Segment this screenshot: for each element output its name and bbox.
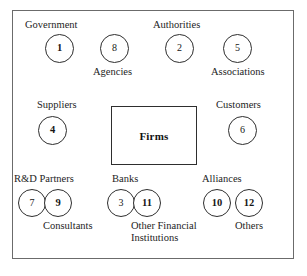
node-agencies[interactable]: 8 <box>100 34 129 63</box>
node-other-financial-institutions[interactable]: 11 <box>133 189 161 217</box>
label-others: Others <box>235 220 263 232</box>
node-number-other-financial-institutions: 11 <box>142 198 152 209</box>
node-number-government: 1 <box>57 43 62 54</box>
node-number-rd-partners: 7 <box>30 198 35 208</box>
node-rd-partners[interactable]: 7 <box>18 189 46 217</box>
label-agencies: Agencies <box>93 66 132 78</box>
label-other-financial-institutions: Other Financial Institutions <box>131 220 209 244</box>
label-authorities: Authorities <box>153 19 200 31</box>
node-number-alliances: 10 <box>212 198 223 209</box>
label-government: Government <box>25 19 78 31</box>
label-associations: Associations <box>211 66 265 78</box>
label-alliances: Alliances <box>202 173 242 185</box>
node-consultants[interactable]: 9 <box>44 189 72 217</box>
node-number-customers: 6 <box>240 125 245 135</box>
label-suppliers: Suppliers <box>37 99 77 111</box>
label-rd-partners: R&D Partners <box>14 173 74 185</box>
node-suppliers[interactable]: 4 <box>38 116 67 145</box>
center-firms-label: Firms <box>139 130 168 142</box>
node-authorities[interactable]: 2 <box>165 34 194 63</box>
node-number-others: 12 <box>244 198 255 209</box>
diagram-canvas: Government 1 8 Agencies Authorities 2 5 … <box>0 0 307 276</box>
node-others[interactable]: 12 <box>235 189 263 217</box>
node-government[interactable]: 1 <box>45 34 74 63</box>
center-firms-box[interactable]: Firms <box>111 106 197 165</box>
node-number-banks: 3 <box>119 198 124 208</box>
node-associations[interactable]: 5 <box>223 34 252 63</box>
label-banks: Banks <box>112 173 138 185</box>
diagram-outer-frame: Government 1 8 Agencies Authorities 2 5 … <box>12 10 294 259</box>
node-number-suppliers: 4 <box>50 125 55 136</box>
node-number-agencies: 8 <box>112 43 117 53</box>
node-banks[interactable]: 3 <box>107 189 135 217</box>
node-alliances[interactable]: 10 <box>203 189 231 217</box>
node-number-associations: 5 <box>235 43 240 53</box>
label-customers: Customers <box>216 99 261 111</box>
node-number-consultants: 9 <box>55 198 60 209</box>
node-customers[interactable]: 6 <box>228 116 257 145</box>
node-number-authorities: 2 <box>177 43 182 53</box>
label-consultants: Consultants <box>43 220 93 232</box>
